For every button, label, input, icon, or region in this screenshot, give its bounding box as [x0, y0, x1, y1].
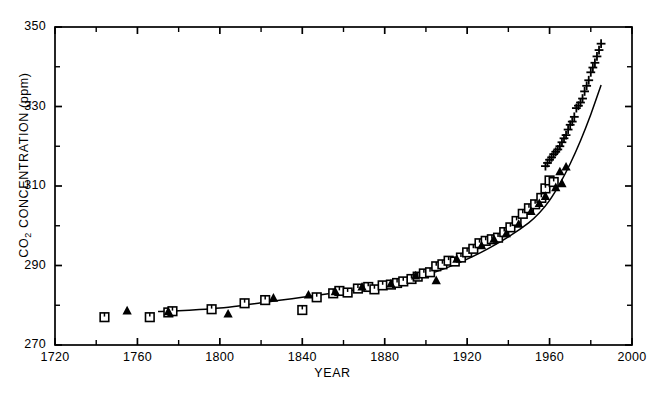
y-tick-label: 310	[12, 178, 46, 192]
x-tick-label: 1920	[439, 350, 495, 364]
fit-curve	[158, 85, 601, 312]
x-tick-label: 1960	[522, 350, 578, 364]
x-tick-label: 1720	[27, 350, 83, 364]
x-tick-label: 1880	[357, 350, 413, 364]
x-tick-label: 2000	[604, 350, 660, 364]
plot-canvas	[0, 0, 665, 399]
y-tick-label: 330	[12, 99, 46, 113]
x-tick-label: 1800	[192, 350, 248, 364]
y-tick-label: 350	[12, 19, 46, 33]
co2-concentration-figure: CO2 CONCENTRATION (ppm) YEAR 27029031033…	[0, 0, 665, 399]
y-tick-label: 290	[12, 258, 46, 272]
series-mauna-loa-plus	[541, 39, 605, 170]
marker-filled-triangle	[122, 306, 131, 315]
y-tick-label: 270	[12, 337, 46, 351]
x-tick-label: 1760	[109, 350, 165, 364]
x-tick-label: 1840	[274, 350, 330, 364]
marker-filled-triangle	[223, 309, 232, 318]
